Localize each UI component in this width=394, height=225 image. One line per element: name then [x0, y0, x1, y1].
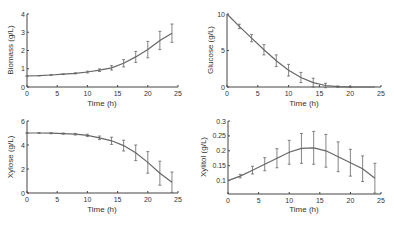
axis-lines — [27, 121, 178, 193]
data-line — [27, 133, 172, 182]
figure-canvas: 051015202501234 Time (h) Biomass (g/L) 0… — [0, 0, 394, 225]
x-tick-label: 0 — [226, 197, 230, 204]
glucose-plot-area: 05101520250510 — [217, 11, 385, 98]
x-tick-label: 25 — [174, 196, 182, 203]
x-tick-label: 20 — [347, 197, 355, 204]
axis-lines — [228, 121, 381, 194]
y-tick-label: 6 — [21, 118, 25, 125]
x-tick-label: 5 — [55, 90, 59, 97]
y-tick-label: 5 — [221, 47, 225, 54]
panel-biomass: 051015202501234 Time (h) Biomass (g/L) — [6, 11, 182, 109]
x-tick-label: 15 — [114, 196, 122, 203]
y-tick-label: 0.2 — [216, 147, 226, 154]
y-tick-label: 0 — [21, 190, 25, 197]
x-tick-label: 25 — [377, 197, 385, 204]
x-tick-label: 10 — [285, 197, 293, 204]
y-tick-label: 1 — [21, 65, 25, 72]
y-tick-label: 2 — [21, 47, 25, 54]
y-tick-label: 0 — [221, 84, 225, 91]
y-tick-label: 0.1 — [216, 177, 226, 184]
xylose-y-label: Xylose (g/L) — [6, 135, 15, 178]
x-tick-label: 20 — [346, 90, 354, 97]
x-tick-label: 15 — [316, 90, 324, 97]
y-tick-label: 3 — [21, 29, 25, 36]
x-tick-label: 10 — [84, 196, 92, 203]
y-tick-label: 10 — [217, 11, 225, 18]
x-tick-label: 15 — [114, 90, 122, 97]
xylitol-y-label: Xylitol (g/L) — [199, 137, 208, 177]
y-tick-label: 0.25 — [212, 132, 226, 139]
x-tick-label: 20 — [144, 196, 152, 203]
x-tick-label: 0 — [25, 196, 29, 203]
x-tick-label: 5 — [256, 90, 260, 97]
x-tick-label: 15 — [316, 197, 324, 204]
panel-glucose: 05101520250510 Time (h) Glucose (g/L) — [206, 11, 385, 109]
axis-lines — [227, 14, 381, 87]
panel-xylose: 05101520250246 Time (h) Xylose (g/L) — [6, 118, 182, 215]
x-tick-label: 20 — [144, 90, 152, 97]
glucose-x-label: Time (h) — [289, 99, 319, 108]
axis-lines — [27, 14, 178, 87]
xylose-plot-area: 05101520250246 — [21, 118, 182, 204]
x-tick-label: 0 — [25, 90, 29, 97]
y-tick-label: 2 — [21, 166, 25, 173]
biomass-x-label: Time (h) — [87, 99, 117, 108]
x-tick-label: 10 — [285, 90, 293, 97]
biomass-plot-area: 051015202501234 — [21, 11, 182, 98]
xylitol-x-label: Time (h) — [289, 205, 319, 214]
y-tick-label: 4 — [21, 142, 25, 149]
x-tick-label: 25 — [174, 90, 182, 97]
panel-xylitol: 05101520250.10.150.20.250.3 Time (h) Xyl… — [199, 118, 385, 215]
x-tick-label: 0 — [225, 90, 229, 97]
glucose-y-label: Glucose (g/L) — [206, 26, 215, 74]
x-tick-label: 5 — [257, 197, 261, 204]
x-tick-label: 25 — [377, 90, 385, 97]
y-tick-label: 0 — [21, 84, 25, 91]
x-tick-label: 10 — [84, 90, 92, 97]
xylitol-plot-area: 05101520250.10.150.20.250.3 — [212, 118, 385, 205]
xylose-x-label: Time (h) — [87, 205, 117, 214]
y-tick-label: 4 — [21, 11, 25, 18]
y-tick-label: 0.3 — [216, 118, 226, 125]
y-tick-label: 0.15 — [212, 162, 226, 169]
biomass-y-label: Biomass (g/L) — [6, 25, 15, 75]
x-tick-label: 5 — [55, 196, 59, 203]
